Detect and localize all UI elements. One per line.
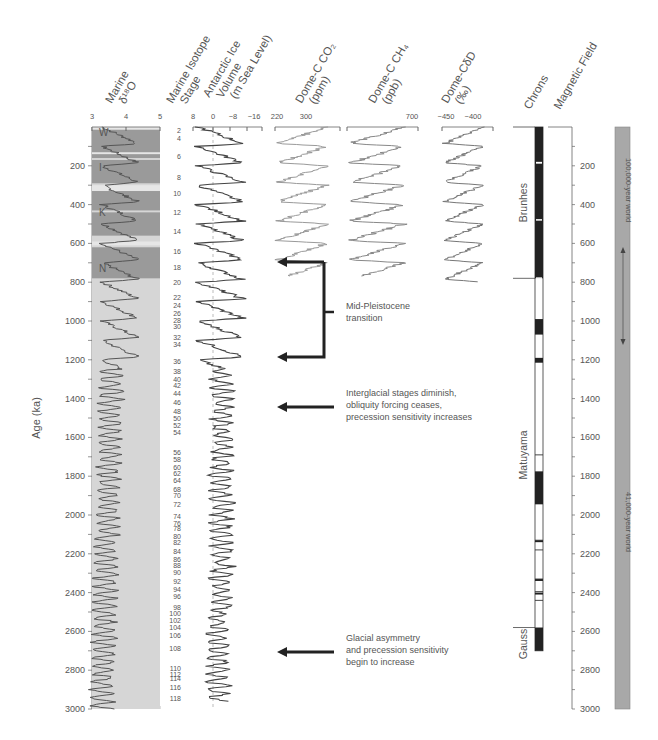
y-axis-label: Age (ka): [30, 397, 42, 439]
mis-stage-label: 38: [173, 368, 181, 375]
mis-stage-label: 64: [173, 477, 181, 484]
ice-tick: −16: [248, 112, 261, 121]
annotation-texts: Mid-PleistocenetransitionInterglacial st…: [346, 301, 473, 667]
interglacial-label: K: [99, 207, 106, 218]
mis-stage-label: 118: [170, 695, 181, 702]
d18o-tick: 4: [124, 112, 128, 121]
age-tick-label: 2400: [65, 588, 85, 598]
mis-stage-label: 12: [173, 209, 181, 216]
mis-stage-label: 34: [173, 341, 181, 348]
regime-label-41k: 41,000-year world: [624, 492, 633, 552]
annotation-glacial: and precession sensitivity: [346, 645, 449, 655]
annotation-interglacial: precession sensitivity increases: [346, 412, 473, 422]
mis-stage-label: 36: [173, 358, 181, 365]
mis-stage-label: 90: [173, 569, 181, 576]
mis-stage-label: 22: [173, 294, 181, 301]
chron-label: Matuyama: [517, 430, 529, 479]
right-age-tick: 1200: [580, 355, 600, 365]
age-tick-label: 1800: [65, 471, 85, 481]
age-tick-label: 2000: [65, 510, 85, 520]
mis-stage-label: 58: [173, 456, 181, 463]
ice-tick: 8: [191, 112, 195, 121]
chron-label: Brunhes: [517, 183, 529, 222]
mis-stage-label: 42: [173, 382, 181, 389]
mis-stage-label: 114: [170, 675, 181, 682]
annotation-interglacial: obliquity forcing ceases,: [346, 400, 442, 410]
mis-stage-label: 54: [173, 429, 181, 436]
column-headers: Marineδ¹⁸OMarine IsotopeStageAntarctic I…: [103, 20, 599, 111]
regime-label-100k: 100,000-year world: [624, 158, 633, 222]
age-tick-label: 1200: [65, 355, 85, 365]
right-age-tick: 1600: [580, 432, 600, 442]
ch4-panel: 700: [347, 112, 418, 276]
mis-stage-label: 72: [173, 501, 181, 508]
right-age-tick: 800: [580, 277, 595, 287]
age-tick-label: 1400: [65, 394, 85, 404]
ice-volume-panel: 80−8−16: [191, 112, 262, 709]
mis-stage-label: 70: [173, 492, 181, 499]
regime-bar: 100,000-year world41,000-year world: [615, 127, 633, 709]
mis-stage-label: 82: [173, 539, 181, 546]
mis-stage-labels: 2468101214161820222426283032343638404244…: [169, 127, 181, 701]
chron-column: BrunhesMatuyamaGauss: [513, 127, 535, 659]
annotation-mpt: Mid-Pleistocene: [346, 301, 410, 311]
mis-stage-label: 2: [177, 127, 181, 134]
right-age-tick: 200: [580, 161, 595, 171]
right-age-axis: 2004006008001000120014001600180020002200…: [548, 127, 600, 714]
mis-stage-label: 16: [173, 248, 181, 255]
annotation-interglacial: Interglacial stages diminish,: [346, 388, 457, 398]
mis-stage-label: 8: [177, 174, 181, 181]
d18o-tick: 3: [90, 112, 94, 121]
right-age-tick: 1800: [580, 471, 600, 481]
paleoclimate-figure: Marineδ¹⁸OMarine IsotopeStageAntarctic I…: [0, 0, 658, 740]
annotation-mpt: transition: [346, 313, 383, 323]
interglacial-label: I: [99, 162, 102, 173]
mis-stage-label: 84: [173, 548, 181, 555]
mis-stage-label: 50: [173, 415, 181, 422]
column-title-line: Chrons: [521, 73, 550, 111]
age-tick-label: 2200: [65, 549, 85, 559]
mis-stage-label: 106: [169, 632, 181, 639]
mis-stage-label: 20: [173, 279, 181, 286]
chron-label: Gauss: [517, 629, 529, 659]
right-age-tick: 1000: [580, 316, 600, 326]
mis-stage-label: 30: [173, 323, 181, 330]
annotation-glacial: begin to increase: [346, 657, 415, 667]
age-tick-label: 2800: [65, 665, 85, 675]
dd-tick: −450: [438, 112, 455, 121]
right-age-tick: 400: [580, 200, 595, 210]
right-age-tick: 2600: [580, 626, 600, 636]
co2-tick: 300: [300, 112, 313, 121]
mis-stage-label: 46: [173, 399, 181, 406]
mis-stage-label: 24: [173, 302, 181, 309]
ice-tick: 0: [211, 112, 215, 121]
right-age-tick: 2400: [580, 588, 600, 598]
age-tick-label: 600: [70, 238, 85, 248]
age-tick-label: 3000: [65, 704, 85, 714]
dd-panel: −450−400: [438, 112, 493, 282]
column-title-co2: Dome-C CO₂(ppm): [293, 40, 348, 111]
mis-stage-label: 44: [173, 390, 181, 397]
column-title-ice: Antarctic IceVolume(m Sea Level): [201, 20, 274, 111]
co2-panel: 220300: [271, 112, 340, 276]
magnetic-polarity-column: [535, 127, 543, 651]
ice-tick: −8: [229, 112, 238, 121]
column-title-chrons: Chrons: [521, 73, 550, 111]
interglacial-label: W: [99, 127, 109, 138]
column-title-line: Magnetic Field: [551, 40, 599, 111]
d18o-tick: 5: [158, 112, 162, 121]
annotation-glacial: Glacial asymmetry: [346, 633, 421, 643]
ch4-tick: 700: [406, 112, 419, 121]
age-tick-label: 800: [70, 277, 85, 287]
mis-stage-label: 4: [177, 135, 181, 142]
mis-stage-label: 104: [169, 624, 181, 631]
column-title-mag: Magnetic Field: [551, 40, 599, 111]
age-tick-label: 1600: [65, 432, 85, 442]
right-age-tick: 2800: [580, 665, 600, 675]
mis-stage-label: 14: [173, 228, 181, 235]
mis-stage-label: 6: [177, 153, 181, 160]
right-age-tick: 2000: [580, 510, 600, 520]
mis-stage-label: 96: [173, 593, 181, 600]
age-tick-label: 200: [70, 161, 85, 171]
right-age-tick: 1400: [580, 394, 600, 404]
